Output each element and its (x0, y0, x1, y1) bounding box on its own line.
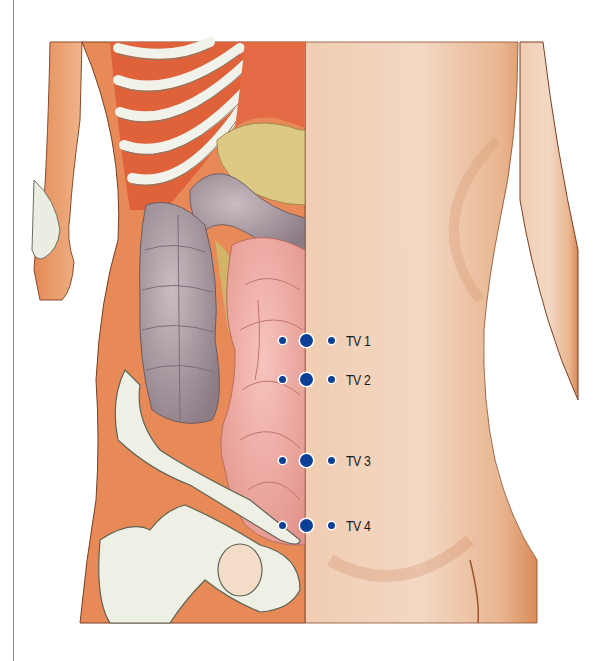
point-row-tv4: TV 4 (0, 516, 612, 536)
point-dot-left (279, 376, 286, 383)
point-dot-center (300, 373, 313, 386)
point-dot-center (300, 454, 313, 467)
point-label: TV 3 (346, 452, 370, 469)
point-dot-right (328, 337, 335, 344)
point-label: TV 1 (346, 332, 370, 349)
point-row-tv1: TV 1 (0, 331, 612, 351)
point-dot-left (279, 522, 286, 529)
point-row-tv3: TV 3 (0, 451, 612, 471)
point-label: TV 2 (346, 371, 370, 388)
point-dot-left (279, 457, 286, 464)
obturator-foramen (218, 544, 262, 596)
left-arm (34, 42, 82, 300)
liver (235, 42, 305, 128)
point-dot-right (328, 376, 335, 383)
point-label: TV 4 (346, 517, 370, 534)
point-dot-left (279, 337, 286, 344)
point-dot-right (328, 522, 335, 529)
point-dot-center (300, 519, 313, 532)
point-row-tv2: TV 2 (0, 370, 612, 390)
point-dot-center (300, 334, 313, 347)
point-dot-right (328, 457, 335, 464)
